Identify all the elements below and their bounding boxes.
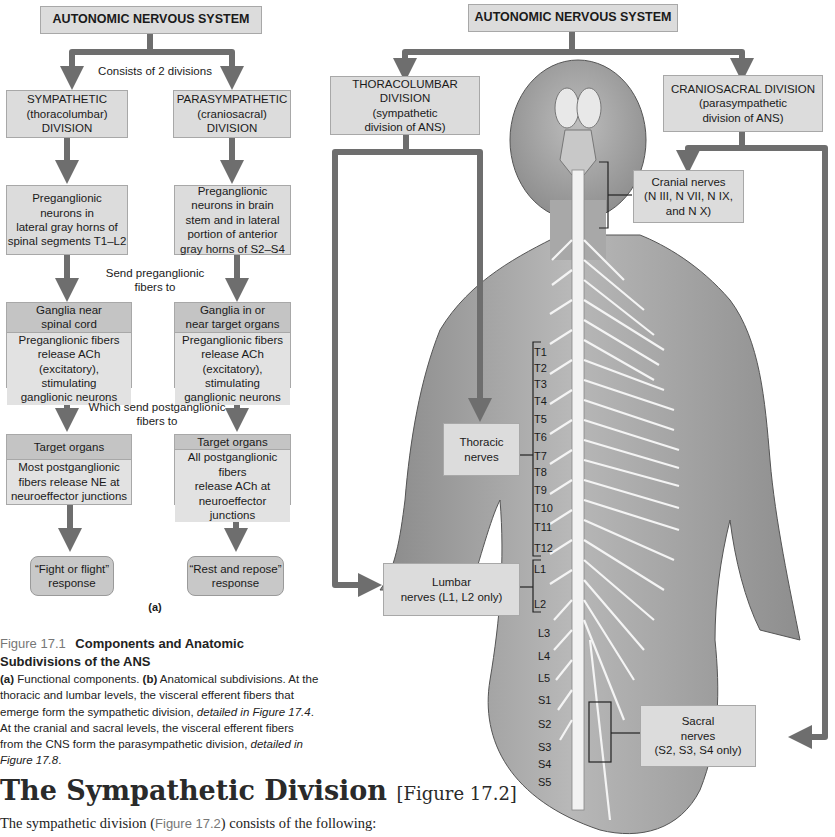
- figure-link[interactable]: Figure 17.2: [155, 816, 221, 831]
- sympathetic-preganglionic-box: Preganglionic neurons in lateral gray ho…: [6, 185, 128, 255]
- parasympathetic-ganglia-box: Ganglia in or near target organs Pregang…: [174, 302, 291, 388]
- segment-label: T6: [534, 431, 547, 443]
- caption-tag-a: (a): [0, 673, 14, 685]
- ganglia-body: Preganglionic fibers release ACh (excita…: [7, 333, 131, 405]
- line: Ganglia in or: [200, 303, 265, 317]
- target-title: Target organs: [7, 435, 131, 460]
- ganglia-title: Ganglia near spinal cord: [7, 303, 131, 333]
- segment-label: T4: [534, 395, 547, 407]
- line: Send preganglionic: [100, 266, 210, 280]
- line: release ACh at: [195, 479, 270, 493]
- fight-or-flight-box: “Fight or flight” response: [30, 556, 114, 596]
- thoracic-nerves-box: Thoracic nerves: [443, 423, 520, 476]
- line: Which send postganglionic: [82, 400, 232, 414]
- send-postganglionic-label: Which send postganglionic fibers to: [82, 400, 232, 429]
- line: (parasympathetic: [699, 96, 787, 110]
- para-text: The sympathetic division (: [0, 815, 155, 831]
- line: gray horns of S2–S4: [180, 242, 285, 256]
- line: division of ANS): [702, 111, 783, 125]
- line: response: [48, 576, 95, 590]
- line: fibers to: [82, 414, 232, 428]
- line: SYMPATHETIC: [27, 92, 107, 106]
- line: DIVISION: [207, 121, 257, 135]
- target-body: Most postganglionic fibers release NE at…: [7, 460, 131, 504]
- segment-label: L2: [534, 598, 546, 610]
- segment-label: L3: [538, 627, 550, 639]
- line: nerves: [681, 729, 716, 743]
- ganglia-body: Preganglionic fibers release ACh (excita…: [175, 333, 290, 405]
- line: (S2, S3, S4 only): [655, 743, 742, 757]
- segment-label: T10: [534, 502, 553, 514]
- line: Preganglionic fibers: [182, 333, 283, 347]
- line: (thoracolumbar): [26, 107, 107, 121]
- sacral-nerves-box: Sacral nerves (S2, S3, S4 only): [640, 705, 756, 767]
- heading-figure-ref: [Figure 17.2]: [396, 783, 516, 804]
- line: portion of anterior: [187, 227, 277, 241]
- target-body: All postganglionic fibers release ACh at…: [175, 450, 290, 522]
- line: and N X): [666, 204, 711, 218]
- line: Ganglia near: [36, 303, 102, 317]
- line: (N III, N VII, N IX,: [644, 189, 733, 203]
- line: division of ANS): [364, 120, 445, 134]
- section-paragraph: The sympathetic division (Figure 17.2) c…: [0, 815, 376, 832]
- line: nerves: [464, 450, 499, 464]
- thoracolumbar-division-box: THORACOLUMBAR DIVISION (sympathetic divi…: [330, 76, 480, 135]
- line: neurons in brain: [191, 198, 273, 212]
- para-text: ) consists of the following:: [221, 815, 376, 831]
- figure-caption: Figure 17.1 Components and Anatomic Subd…: [0, 635, 320, 768]
- caption-text: .: [58, 754, 61, 766]
- line: DIVISION: [42, 121, 92, 135]
- line: stem and in lateral: [186, 213, 280, 227]
- heading-text: The Sympathetic Division: [0, 775, 387, 806]
- line: stimulating: [205, 376, 260, 390]
- line: Preganglionic: [198, 184, 268, 198]
- line: neurons in: [40, 206, 94, 220]
- line: PARASYMPATHETIC: [177, 92, 288, 106]
- root-label: AUTONOMIC NERVOUS SYSTEM: [475, 10, 672, 26]
- line: neuroeffector junctions: [11, 489, 127, 503]
- parasympathetic-target-box: Target organs All postganglionic fibers …: [174, 434, 291, 505]
- segment-label: L1: [534, 563, 546, 575]
- line: “Fight or flight”: [35, 562, 109, 576]
- target-title: Target organs: [175, 435, 290, 450]
- ganglia-title: Ganglia in or near target organs: [175, 303, 290, 333]
- segment-label: T5: [534, 413, 547, 425]
- line: nerves (L1, L2 only): [401, 590, 503, 604]
- line: spinal segments T1–L2: [8, 234, 127, 248]
- line: release ACh (excitatory),: [7, 347, 131, 376]
- send-preganglionic-label: Send preganglionic fibers to: [100, 266, 210, 295]
- line: near target organs: [186, 317, 280, 331]
- segment-label: T7: [534, 450, 547, 462]
- line: Most postganglionic: [18, 460, 120, 474]
- section-heading: The Sympathetic Division [Figure 17.2]: [0, 775, 517, 806]
- figure-number: Figure 17.1: [0, 636, 66, 651]
- segment-label: S3: [538, 741, 551, 753]
- parasympathetic-preganglionic-box: Preganglionic neurons in brain stem and …: [174, 185, 291, 255]
- cranial-nerves-box: Cranial nerves (N III, N VII, N IX, and …: [633, 170, 744, 223]
- segment-label: L5: [538, 672, 550, 684]
- craniosacral-division-box: CRANIOSACRAL DIVISION (parasympathetic d…: [663, 75, 823, 132]
- line: (sympathetic: [372, 106, 437, 120]
- segment-label: S4: [538, 758, 551, 770]
- line: fibers release NE at: [19, 475, 120, 489]
- sympathetic-target-box: Target organs Most postganglionic fibers…: [6, 434, 132, 505]
- line: Preganglionic: [32, 191, 102, 205]
- segment-label: T3: [534, 378, 547, 390]
- segment-label: T8: [534, 466, 547, 478]
- segment-label: L4: [538, 650, 550, 662]
- panel-label-a: (a): [140, 601, 170, 615]
- caption-text: Functional components.: [14, 673, 143, 685]
- segment-label: T2: [534, 362, 547, 374]
- line: (craniosacral): [197, 107, 267, 121]
- line: neuroeffector junctions: [175, 494, 290, 523]
- segment-label: T9: [534, 484, 547, 496]
- sympathetic-ganglia-box: Ganglia near spinal cord Preganglionic f…: [6, 302, 132, 388]
- line: “Rest and repose”: [189, 562, 281, 576]
- line: Thoracic: [459, 435, 503, 449]
- caption-body: (a) Functional components. (b) Anatomica…: [0, 671, 320, 768]
- segment-label: T12: [534, 542, 553, 554]
- ans-root-box-b: AUTONOMIC NERVOUS SYSTEM: [468, 4, 678, 32]
- line: spinal cord: [41, 317, 97, 331]
- line: lateral gray horns of: [16, 220, 118, 234]
- line: Lumbar: [432, 575, 471, 589]
